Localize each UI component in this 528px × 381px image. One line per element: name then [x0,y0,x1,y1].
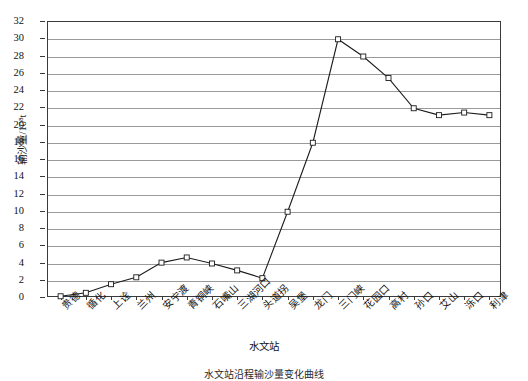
y-axis-tick-label: 0 [0,292,24,302]
y-axis-tick-label: 28 [0,51,24,61]
y-axis-tick-label: 24 [0,85,24,95]
y-axis-tick [40,56,45,57]
y-axis-tick-label: 18 [0,137,24,147]
data-series-sediment-load [48,22,502,298]
data-point-marker [235,268,240,273]
y-axis-tick [40,90,45,91]
data-point-marker [184,255,189,260]
y-axis-tick [40,245,45,246]
y-axis-tick [40,107,45,108]
y-axis-tick [40,176,45,177]
y-axis-tick [40,21,45,22]
y-axis-tick-label: 20 [0,120,24,130]
x-axis-title-text: 水文站 [249,341,279,352]
y-axis-tick [40,142,45,143]
y-axis-tick [40,159,45,160]
data-point-marker [159,260,164,265]
y-axis-tick [40,228,45,229]
y-axis-tick [40,297,45,298]
y-axis-tick [40,73,45,74]
series-line [61,39,490,296]
data-point-marker [411,106,416,111]
data-point-marker [462,110,467,115]
figure-caption: 水文站沿程输沙量变化曲线 [0,366,528,381]
data-point-marker [83,290,88,295]
data-point-marker [285,209,290,214]
y-axis-tick-label: 14 [0,171,24,181]
data-point-marker [336,37,341,42]
data-point-marker [134,275,139,280]
plot-area [47,21,501,297]
data-point-marker [361,54,366,59]
y-axis-tick-label: 6 [0,240,24,250]
y-axis-tick [40,280,45,281]
y-axis-tick-label: 22 [0,102,24,112]
series-marker-group [58,37,492,299]
y-axis-tick-label: 16 [0,154,24,164]
y-axis-tick [40,38,45,39]
y-axis-tick-label: 32 [0,16,24,26]
y-axis-tick-label: 30 [0,33,24,43]
data-point-marker [436,113,441,118]
y-axis-tick-label: 26 [0,68,24,78]
y-axis-tick [40,211,45,212]
y-axis-tick-label: 10 [0,206,24,216]
y-axis-tick-label: 4 [0,258,24,268]
y-axis-tick [40,263,45,264]
y-axis-tick [40,194,45,195]
y-axis-tick-label: 12 [0,189,24,199]
y-axis-tick [40,125,45,126]
data-point-marker [209,261,214,266]
data-point-marker [310,140,315,145]
y-axis-tick-label: 8 [0,223,24,233]
x-axis-title: 水文站 [0,338,528,353]
data-point-marker [487,113,492,118]
data-point-marker [109,282,114,287]
y-axis-tick-label: 2 [0,275,24,285]
data-point-marker [386,76,391,81]
